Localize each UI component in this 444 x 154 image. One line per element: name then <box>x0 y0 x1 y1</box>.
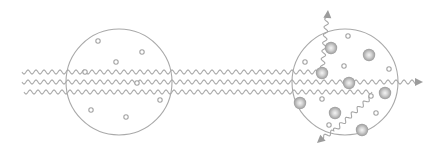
large-particle <box>343 77 355 89</box>
small-particle <box>342 64 346 68</box>
incident-waves <box>22 70 417 94</box>
large-particle <box>294 97 306 109</box>
small-particle <box>135 81 139 85</box>
small-particle <box>96 39 100 43</box>
small-particle <box>89 108 93 112</box>
scattering-diagram <box>0 0 444 154</box>
small-particle <box>374 111 378 115</box>
scattered-up-arrow <box>323 10 331 18</box>
small-particle <box>124 115 128 119</box>
small-particle <box>303 60 307 64</box>
small-particle <box>327 123 331 127</box>
transmitted-arrow <box>415 78 423 86</box>
large-particle <box>316 67 328 79</box>
scattered-down-left-arrow <box>317 135 326 143</box>
small-particle <box>114 60 118 64</box>
large-particle <box>329 107 341 119</box>
small-particle <box>320 97 324 101</box>
small-particle <box>158 98 162 102</box>
small-particle <box>83 70 87 74</box>
small-particle <box>140 50 144 54</box>
small-particle <box>346 34 350 38</box>
small-particle <box>387 67 391 71</box>
small-particle <box>369 94 373 98</box>
large-particle <box>356 124 368 136</box>
large-particle <box>379 87 391 99</box>
particles <box>83 34 391 136</box>
wave-bottom <box>24 90 372 94</box>
large-particle <box>325 42 337 54</box>
wave-middle <box>22 80 417 84</box>
large-particle <box>363 49 375 61</box>
